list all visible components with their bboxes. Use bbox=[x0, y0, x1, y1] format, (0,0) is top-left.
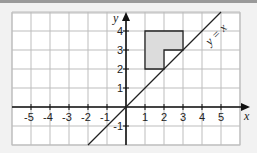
x-tick-label: 2 bbox=[161, 111, 167, 123]
y-tick-label: -1 bbox=[113, 120, 123, 132]
x-tick-label: 3 bbox=[180, 111, 186, 123]
x-tick-label: -4 bbox=[43, 111, 53, 123]
x-tick-label: -5 bbox=[24, 111, 34, 123]
x-tick-label: -1 bbox=[100, 111, 110, 123]
coordinate-grid-diagram: -5-4-3-2-112345 4321-1 x y y = x bbox=[0, 0, 257, 153]
y-tick-label: 4 bbox=[117, 25, 123, 37]
x-axis-label: x bbox=[243, 109, 250, 123]
x-tick-label: -3 bbox=[62, 111, 72, 123]
y-tick-label: 3 bbox=[117, 44, 123, 56]
x-tick-label: 1 bbox=[142, 111, 148, 123]
y-tick-label: 2 bbox=[117, 63, 123, 75]
x-tick-label: 5 bbox=[218, 111, 224, 123]
y-tick-label: 1 bbox=[117, 82, 123, 94]
x-tick-label: -2 bbox=[81, 111, 91, 123]
x-tick-label: 4 bbox=[199, 111, 205, 123]
y-axis-label: y bbox=[112, 11, 119, 25]
